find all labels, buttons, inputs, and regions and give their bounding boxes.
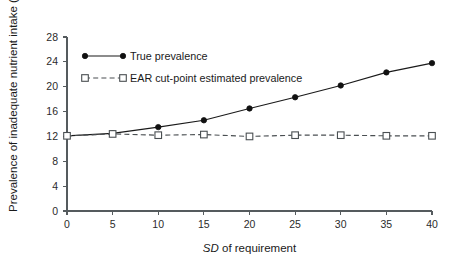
y-tick-label: 8 bbox=[52, 155, 58, 167]
y-tick-label: 12 bbox=[46, 130, 58, 142]
legend-marker-sample bbox=[120, 75, 127, 82]
legend-item: True prevalence bbox=[82, 50, 207, 62]
y-axis-ticks: 0 4 8 12 16 20 24 28 bbox=[46, 31, 67, 217]
data-point bbox=[383, 133, 390, 140]
x-tick-label: 5 bbox=[110, 218, 116, 230]
x-tick-label: 0 bbox=[64, 218, 70, 230]
x-tick-label: 35 bbox=[380, 218, 392, 230]
chart-figure: Prevalence of inadequate nutrient intake… bbox=[0, 0, 457, 266]
data-point bbox=[337, 132, 344, 139]
x-tick-label: 15 bbox=[198, 218, 210, 230]
y-tick-label: 28 bbox=[46, 31, 58, 43]
data-point bbox=[201, 118, 206, 123]
x-axis-ticks: 0 5 10 15 20 25 30 35 40 bbox=[64, 211, 438, 230]
data-point bbox=[247, 106, 252, 111]
data-point bbox=[109, 131, 116, 138]
data-point bbox=[201, 131, 208, 138]
legend-item: EAR cut-point estimated prevalence bbox=[82, 72, 303, 84]
legend-marker-sample bbox=[120, 53, 125, 58]
x-tick-label: 20 bbox=[244, 218, 256, 230]
legend-label: EAR cut-point estimated prevalence bbox=[130, 72, 302, 84]
x-axis-title: SD of requirement bbox=[203, 242, 297, 254]
legend-marker-sample bbox=[82, 53, 87, 58]
legend-label: True prevalence bbox=[130, 50, 208, 62]
x-tick-label: 40 bbox=[426, 218, 438, 230]
data-point bbox=[155, 132, 162, 139]
legend-marker-sample bbox=[82, 75, 89, 82]
data-point bbox=[338, 83, 343, 88]
x-tick-label: 25 bbox=[289, 218, 301, 230]
data-point bbox=[429, 60, 434, 65]
x-tick-label: 30 bbox=[335, 218, 347, 230]
y-tick-label: 24 bbox=[46, 55, 58, 67]
data-point bbox=[292, 95, 297, 100]
data-point bbox=[246, 133, 253, 140]
x-axis-title-italic: SD bbox=[203, 242, 219, 254]
data-point bbox=[156, 124, 161, 129]
y-tick-label: 16 bbox=[46, 105, 58, 117]
data-point bbox=[429, 133, 436, 140]
data-point bbox=[64, 133, 71, 140]
data-point bbox=[292, 132, 299, 139]
data-point bbox=[384, 70, 389, 75]
chart-canvas: Prevalence of inadequate nutrient intake… bbox=[0, 0, 457, 266]
y-axis-title: Prevalence of inadequate nutrient intake… bbox=[7, 0, 19, 212]
y-tick-label: 4 bbox=[52, 180, 58, 192]
y-tick-label: 0 bbox=[52, 205, 58, 217]
x-tick-label: 10 bbox=[152, 218, 164, 230]
y-tick-label: 20 bbox=[46, 80, 58, 92]
chart-legend: True prevalenceEAR cut-point estimated p… bbox=[82, 50, 303, 84]
x-axis-title-rest: of requirement bbox=[219, 242, 297, 254]
